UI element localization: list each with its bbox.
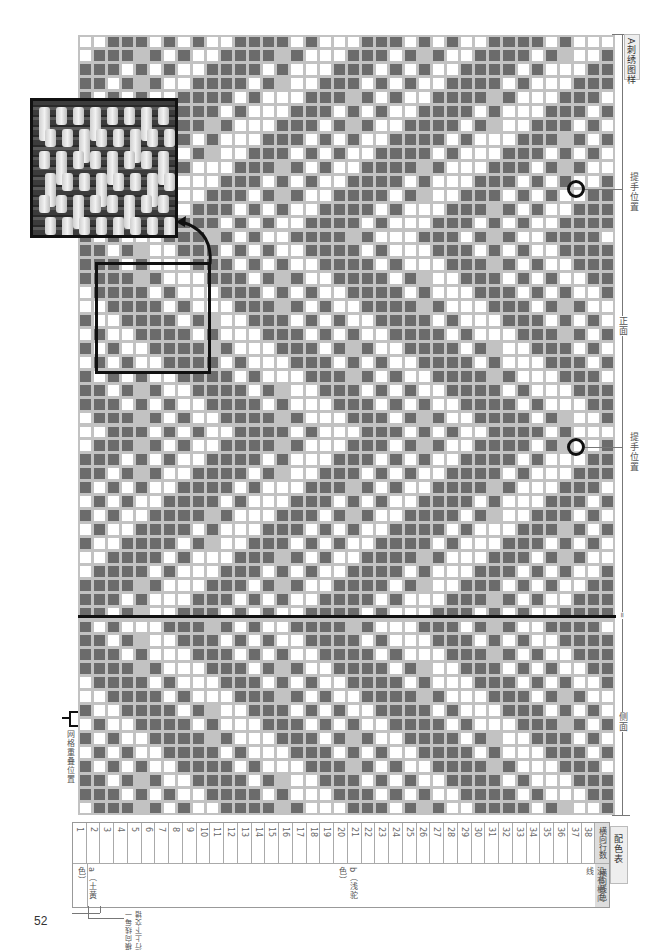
row-number-cell: 11: [210, 823, 224, 863]
handle-position-marker-2: [567, 438, 585, 456]
stitch-float: [158, 107, 169, 125]
stitch-float: [130, 217, 141, 235]
stitch-float: [113, 173, 124, 191]
net-overlap-label: 网格重叠位置: [64, 730, 75, 784]
row-number-cell: 31: [485, 823, 499, 863]
row-number-cell: 12: [224, 823, 238, 863]
stitch-closeup-photo: [30, 98, 178, 238]
row-number-cell: 20: [334, 823, 348, 863]
stitch-float: [62, 129, 73, 147]
row-number-cell: 34: [527, 823, 541, 863]
stitch-float: [56, 195, 67, 213]
row-number-cell: 27: [430, 823, 444, 863]
footnote-bracket-v2: [100, 906, 101, 913]
stitch-float: [107, 195, 118, 213]
row-number-cell: 3: [100, 823, 114, 863]
row-number-cell: 7: [155, 823, 169, 863]
stitch-float: [90, 151, 101, 169]
handle-position-marker-1: [567, 180, 585, 198]
footnote-label: 横向线每一行上下交错: [124, 908, 144, 950]
stitch-float: [39, 151, 50, 169]
row-number-cell: 38: [582, 823, 596, 863]
overlap-bracket-icon: [60, 710, 80, 728]
stitch-float: [141, 195, 152, 213]
stitch-float: [107, 107, 118, 125]
row-number-cell: 2: [87, 823, 101, 863]
row-number-cell: 1: [73, 823, 87, 863]
row-number-cell: 14: [252, 823, 266, 863]
rows-header: 横向行数: [595, 823, 609, 863]
stitch-float: [164, 173, 175, 191]
row-number-cell: 6: [142, 823, 156, 863]
row-number-cell: 28: [444, 823, 458, 863]
stitch-float: [124, 151, 135, 169]
handle-leader-line-2: [585, 447, 623, 448]
stitch-float: [158, 195, 169, 213]
right-dimension-line: [622, 34, 623, 816]
side-label: 侧面: [617, 712, 630, 732]
stitch-float: [56, 107, 67, 125]
stitch-float: [113, 217, 124, 238]
stitch-float: [164, 129, 175, 147]
row-number-cell: 25: [403, 823, 417, 863]
handle-leader-line-1: [585, 189, 623, 190]
row-number-cell: 30: [472, 823, 486, 863]
row-number-cell: 22: [362, 823, 376, 863]
stitch-float: [62, 173, 73, 191]
center-divider-line: [78, 615, 616, 618]
row-number-cell: 17: [293, 823, 307, 863]
color-table: 1234567891011121314151617181920212223242…: [72, 822, 610, 908]
row-number-cell: 15: [265, 823, 279, 863]
row-number-cell: 37: [568, 823, 582, 863]
row-number-cell: 18: [307, 823, 321, 863]
stitch-float: [130, 173, 141, 191]
stitch-float: [73, 107, 84, 125]
stitch-float: [147, 217, 158, 235]
row-number-cell: 23: [375, 823, 389, 863]
color-b-label: b（浅驼色）: [336, 867, 358, 907]
row-number-cell: 26: [417, 823, 431, 863]
row-number-cell: 9: [183, 823, 197, 863]
stitch-float: [45, 217, 56, 235]
stitch-float: [124, 107, 135, 125]
stitch-float: [73, 151, 84, 169]
row-number-cell: 16: [279, 823, 293, 863]
stitch-float: [96, 217, 107, 235]
handle-position-label-2: 提手位置: [628, 432, 641, 472]
stitch-float: [79, 217, 90, 235]
stitch-float: [147, 129, 158, 147]
stitch-float: [90, 195, 101, 213]
detail-highlight-box: [95, 262, 211, 374]
row-number-cell: 32: [499, 823, 513, 863]
front-label: 正面: [617, 316, 630, 336]
dimension-tick-bottom: [612, 815, 630, 816]
stitch-float: [141, 151, 152, 169]
stitch-float: [45, 129, 56, 147]
footnote-bracket-h: [88, 918, 124, 919]
row-number-cell: 21: [348, 823, 362, 863]
center-mark: =: [618, 612, 626, 619]
pattern-title: A刺绣图样: [625, 38, 638, 85]
curved-arrow-icon: [172, 212, 218, 266]
handle-position-label-1: 提手位置: [628, 172, 641, 212]
row-number-cell: 19: [320, 823, 334, 863]
footnote-bracket-h2: [72, 913, 100, 914]
row-number-cell: 5: [128, 823, 142, 863]
row-number-cell: 24: [389, 823, 403, 863]
stitch-float: [113, 129, 124, 147]
stitch-float: [96, 129, 107, 147]
row-number-cell: 29: [458, 823, 472, 863]
no-weft-label: 没有横向线: [584, 867, 606, 907]
color-table-title: 配色表: [612, 834, 625, 864]
row-number-cell: 10: [197, 823, 211, 863]
page-number: 52: [34, 914, 47, 928]
stitch-float: [79, 173, 90, 191]
row-number-cell: 8: [169, 823, 183, 863]
row-number-cell: 13: [238, 823, 252, 863]
stitch-float: [62, 217, 73, 238]
row-number-cell: 33: [513, 823, 527, 863]
footnote-bracket-v: [88, 906, 89, 918]
row-number-cell: 36: [554, 823, 568, 863]
row-number-cell: 35: [540, 823, 554, 863]
stitch-float: [39, 195, 50, 213]
